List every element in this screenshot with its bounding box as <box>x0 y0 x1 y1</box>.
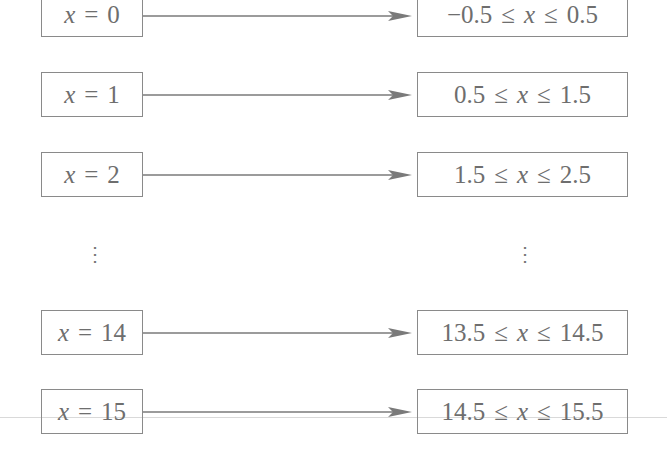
equals-sign: = <box>78 319 92 347</box>
arrow-1 <box>143 89 417 101</box>
value: 0 <box>107 1 120 29</box>
value: 15 <box>101 398 126 426</box>
variable: x <box>517 319 528 347</box>
interval-box-2: 1.5≤x≤2.5 <box>417 152 628 197</box>
lower-bound: 1.5 <box>454 161 485 189</box>
arrow-right-icon <box>143 406 417 418</box>
lower-bound: −0.5 <box>447 1 492 29</box>
variable: x <box>58 398 69 426</box>
vertical-ellipsis-left: ⋮ <box>85 244 105 264</box>
equals-sign: = <box>84 1 98 29</box>
equals-sign: = <box>78 398 92 426</box>
le-symbol: ≤ <box>537 161 551 189</box>
lower-bound: 13.5 <box>441 319 485 347</box>
le-symbol: ≤ <box>501 1 515 29</box>
arrow-15 <box>143 406 417 418</box>
interval-box-14: 13.5≤x≤14.5 <box>417 310 628 355</box>
le-symbol: ≤ <box>537 319 551 347</box>
lower-bound: 0.5 <box>454 81 485 109</box>
variable: x <box>524 1 535 29</box>
upper-bound: 0.5 <box>567 1 598 29</box>
le-symbol: ≤ <box>494 81 508 109</box>
arrow-right-icon <box>143 169 417 181</box>
arrow-right-icon <box>143 327 417 339</box>
discrete-value-box-0: x=0 <box>41 0 143 37</box>
discrete-value-box-2: x=2 <box>41 152 143 197</box>
upper-bound: 1.5 <box>560 81 591 109</box>
equals-sign: = <box>84 161 98 189</box>
lower-bound: 14.5 <box>441 398 485 426</box>
interval-box-0: −0.5≤x≤0.5 <box>417 0 628 37</box>
arrow-right-icon <box>143 10 417 22</box>
variable: x <box>517 161 528 189</box>
variable: x <box>58 319 69 347</box>
discrete-value-box-14: x=14 <box>41 310 143 355</box>
le-symbol: ≤ <box>537 81 551 109</box>
variable: x <box>64 161 75 189</box>
le-symbol: ≤ <box>494 161 508 189</box>
vertical-ellipsis-right: ⋮ <box>515 244 535 264</box>
arrow-right-icon <box>143 89 417 101</box>
value: 2 <box>107 161 120 189</box>
variable: x <box>517 398 528 426</box>
interval-box-15: 14.5≤x≤15.5 <box>417 389 628 434</box>
le-symbol: ≤ <box>494 398 508 426</box>
interval-box-1: 0.5≤x≤1.5 <box>417 72 628 117</box>
le-symbol: ≤ <box>537 398 551 426</box>
value: 1 <box>107 81 120 109</box>
discrete-value-box-15: x=15 <box>41 389 143 434</box>
value: 14 <box>101 319 126 347</box>
upper-bound: 15.5 <box>560 398 604 426</box>
variable: x <box>64 81 75 109</box>
le-symbol: ≤ <box>544 1 558 29</box>
variable: x <box>517 81 528 109</box>
discrete-value-box-1: x=1 <box>41 72 143 117</box>
arrow-2 <box>143 169 417 181</box>
variable: x <box>64 1 75 29</box>
upper-bound: 2.5 <box>560 161 591 189</box>
le-symbol: ≤ <box>494 319 508 347</box>
arrow-0 <box>143 10 417 22</box>
equals-sign: = <box>84 81 98 109</box>
arrow-14 <box>143 327 417 339</box>
upper-bound: 14.5 <box>560 319 604 347</box>
